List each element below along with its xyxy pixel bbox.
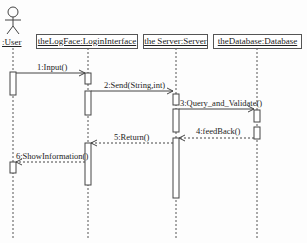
- activation-user-1: [10, 72, 16, 95]
- activation-login-1: [85, 73, 91, 84]
- message-label-4: 4:feedBack(): [196, 126, 240, 136]
- object-database: theDatabase:Database: [213, 34, 302, 49]
- activation-server-3: [173, 138, 179, 198]
- sequence-diagram: :User theLogFace:LoginInterface the Serv…: [0, 0, 307, 243]
- message-label-1: 1:Input(): [37, 62, 67, 72]
- activation-user-2: [10, 162, 16, 173]
- activation-login-2: [85, 91, 91, 115]
- actor-user-label: :User: [2, 37, 22, 47]
- activation-server-2: [173, 109, 179, 132]
- activation-db-2: [254, 127, 260, 139]
- object-login-interface: theLogFace:LoginInterface: [36, 34, 138, 49]
- message-label-6: 6:ShowInformation(): [16, 151, 88, 161]
- message-label-2: 2:Send(String,int): [104, 80, 165, 90]
- message-label-5: 5:Return(): [114, 132, 149, 142]
- actor-icon: [5, 7, 21, 34]
- object-server: the Server:Server: [143, 34, 208, 49]
- activation-login-3: [85, 143, 91, 185]
- activation-server-1: [173, 94, 179, 105]
- activation-db-1: [254, 110, 260, 122]
- message-label-3: 3:Query_and_Validate(): [180, 98, 262, 108]
